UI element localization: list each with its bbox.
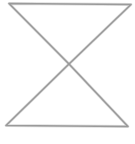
lower-triangle-halo xyxy=(6,64,128,127)
hourglass-diagram xyxy=(0,0,135,144)
drawing-canvas xyxy=(0,0,135,144)
upper-triangle xyxy=(9,4,131,65)
lower-triangle xyxy=(6,64,128,127)
upper-triangle-halo xyxy=(9,4,131,65)
